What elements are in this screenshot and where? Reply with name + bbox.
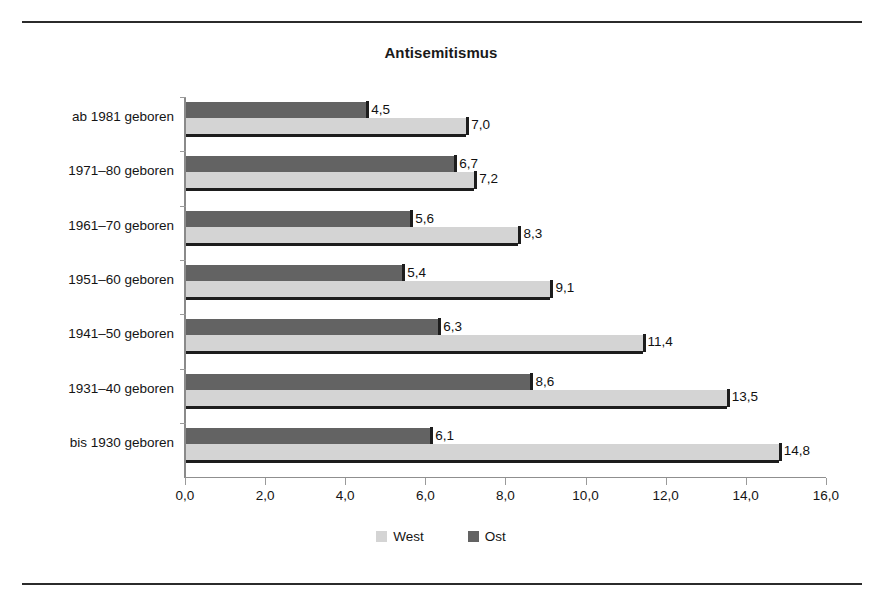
chart-plot-area: ab 1981 geboren4,57,01971–80 geboren6,77… <box>0 0 882 603</box>
y-axis-tick-label: 1931–40 geboren <box>68 381 174 396</box>
bar-end-cap <box>643 334 646 352</box>
x-axis-tick-label: 14,0 <box>716 488 776 503</box>
legend-item-ost[interactable]: Ost <box>468 529 506 544</box>
bar-value-label: 5,6 <box>415 211 434 226</box>
x-axis-tick <box>826 478 827 485</box>
y-axis-tick <box>180 314 186 315</box>
x-axis-tick <box>345 478 346 485</box>
x-axis-tick-label: 12,0 <box>636 488 696 503</box>
bar-ost[interactable]: 6,7 <box>186 156 454 173</box>
chart-legend: West Ost <box>0 529 882 544</box>
bar-value-label: 7,0 <box>471 117 490 132</box>
x-axis-tick <box>746 478 747 485</box>
y-axis-tick <box>180 206 186 207</box>
bottom-divider-rule <box>22 583 862 585</box>
figure-page: Antisemitismus ab 1981 geboren4,57,01971… <box>0 0 882 603</box>
bar-value-label: 7,2 <box>479 171 498 186</box>
bar-end-cap <box>518 226 521 244</box>
legend-item-west[interactable]: West <box>376 529 424 544</box>
x-axis-tick <box>586 478 587 485</box>
y-axis-tick-label: 1951–60 geboren <box>68 272 174 287</box>
bar-end-cap <box>466 117 469 135</box>
bar-end-cap <box>474 171 477 189</box>
legend-swatch-west-icon <box>376 531 387 542</box>
legend-label-ost: Ost <box>485 529 506 544</box>
bar-end-cap <box>727 389 730 407</box>
bar-value-label: 6,7 <box>459 156 478 171</box>
bar-value-label: 4,5 <box>371 102 390 117</box>
y-axis-tick-label: 1961–70 geboren <box>68 218 174 233</box>
bar-ost[interactable]: 6,3 <box>186 319 438 336</box>
bar-value-label: 6,1 <box>435 428 454 443</box>
y-axis-tick-label: 1971–80 geboren <box>68 163 174 178</box>
x-axis-tick-label: 6,0 <box>395 488 455 503</box>
y-axis-tick <box>180 151 186 152</box>
bar-end-cap <box>454 155 457 173</box>
bar-end-cap <box>366 101 369 119</box>
bar-end-cap <box>430 427 433 445</box>
y-axis-tick <box>180 97 186 98</box>
bar-end-cap <box>530 373 533 391</box>
y-axis-tick-label: 1941–50 geboren <box>68 326 174 341</box>
x-axis-tick <box>265 478 266 485</box>
bar-west[interactable]: 14,8 <box>186 444 779 463</box>
bar-ost[interactable]: 6,1 <box>186 428 430 445</box>
bar-ost[interactable]: 8,6 <box>186 374 530 391</box>
x-axis-tick <box>666 478 667 485</box>
bar-end-cap <box>550 280 553 298</box>
y-axis-tick <box>180 423 186 424</box>
y-axis-tick <box>180 369 186 370</box>
x-axis-tick <box>505 478 506 485</box>
bar-west[interactable]: 8,3 <box>186 227 518 246</box>
bar-value-label: 5,4 <box>407 265 426 280</box>
bar-end-cap <box>779 443 782 461</box>
bar-west[interactable]: 7,0 <box>186 118 466 137</box>
x-axis-tick-label: 10,0 <box>556 488 616 503</box>
bar-ost[interactable]: 4,5 <box>186 102 366 119</box>
x-axis-tick-label: 4,0 <box>315 488 375 503</box>
bar-value-label: 8,3 <box>523 226 542 241</box>
bar-west[interactable]: 13,5 <box>186 390 727 409</box>
bar-value-label: 11,4 <box>648 334 673 349</box>
bar-value-label: 13,5 <box>732 389 758 404</box>
bar-ost[interactable]: 5,4 <box>186 265 402 282</box>
x-axis-tick-label: 2,0 <box>235 488 295 503</box>
bar-value-label: 9,1 <box>555 280 574 295</box>
bar-west[interactable]: 9,1 <box>186 281 550 300</box>
x-axis-tick-label: 0,0 <box>155 488 215 503</box>
legend-swatch-ost-icon <box>468 531 479 542</box>
y-axis-tick-label: ab 1981 geboren <box>72 109 174 124</box>
bar-end-cap <box>410 210 413 228</box>
x-axis-tick <box>425 478 426 485</box>
x-axis-tick-label: 8,0 <box>475 488 535 503</box>
legend-label-west: West <box>393 529 424 544</box>
x-axis-tick <box>185 478 186 485</box>
bar-end-cap <box>438 318 441 336</box>
x-axis-tick-label: 16,0 <box>796 488 856 503</box>
bar-value-label: 6,3 <box>443 319 462 334</box>
bar-west[interactable]: 7,2 <box>186 172 474 191</box>
bar-end-cap <box>402 264 405 282</box>
y-axis-tick <box>180 260 186 261</box>
y-axis-tick-label: bis 1930 geboren <box>70 435 174 450</box>
bar-west[interactable]: 11,4 <box>186 335 643 354</box>
bar-ost[interactable]: 5,6 <box>186 211 410 228</box>
bar-value-label: 14,8 <box>784 443 810 458</box>
bar-value-label: 8,6 <box>535 374 554 389</box>
